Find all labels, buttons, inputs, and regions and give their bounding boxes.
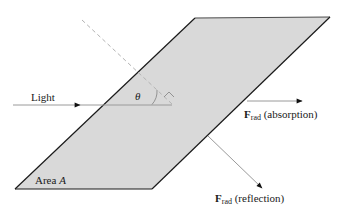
area-label-prefix: Area (35, 174, 59, 186)
force-subscript: rad (251, 113, 261, 122)
area-symbol: A (58, 174, 66, 186)
radiation-pressure-diagram: Light θ Area A Frad (absorption) Frad (r… (0, 0, 343, 212)
reflection-text: (reflection) (232, 192, 285, 205)
reflection-label: Frad (reflection) (215, 192, 285, 206)
force-subscript: rad (222, 197, 232, 206)
absorption-label: Frad (absorption) (244, 108, 318, 122)
area-label: Area A (35, 174, 66, 186)
theta-label: θ (135, 90, 141, 102)
reflection-force-arrow (208, 136, 262, 188)
surface-area (15, 17, 330, 189)
absorption-text: (absorption) (261, 108, 318, 121)
light-label: Light (31, 91, 55, 103)
